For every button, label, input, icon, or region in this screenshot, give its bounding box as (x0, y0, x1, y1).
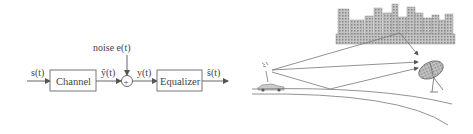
city-skyline (336, 4, 455, 44)
antenna-icon (262, 62, 268, 82)
output-label: ŝ(t) (207, 67, 220, 79)
road (252, 89, 452, 125)
sum-output-label: y(t) (137, 67, 151, 79)
car-icon (258, 84, 284, 92)
input-label: s(t) (31, 67, 44, 79)
channel-label: Channel (56, 76, 91, 87)
equalizer-label: Equalizer (160, 76, 201, 87)
satellite-dish-icon (416, 57, 446, 92)
multipath-illustration (252, 4, 455, 125)
channel-output-label: ŷ(t) (101, 67, 115, 79)
noise-label: noise e(t) (93, 42, 131, 54)
sum-symbol: + (124, 77, 129, 87)
block-diagram: s(t) Channel ŷ(t) noise e(t) + y(t) Equa… (27, 42, 228, 91)
diagram-canvas: s(t) Channel ŷ(t) noise e(t) + y(t) Equa… (0, 0, 473, 134)
